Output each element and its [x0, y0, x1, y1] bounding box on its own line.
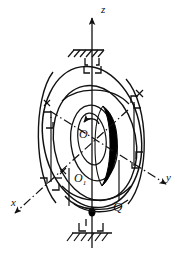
bearing-bracket-left-outer — [44, 112, 53, 128]
point-label-o1-base: O — [74, 171, 83, 185]
axis-label-y: y — [166, 172, 171, 183]
top-support — [68, 50, 104, 65]
point-label-o: O — [79, 128, 88, 140]
bottom-bearing-bracket — [79, 219, 103, 231]
point-label-o1: O1 — [74, 172, 86, 187]
gyroscope-diagram: z y x O O1 Q — [0, 0, 184, 255]
axis-label-x: x — [11, 197, 16, 208]
point-label-o1-subscript: 1 — [83, 179, 87, 187]
point-label-q: Q — [113, 200, 122, 213]
bottom-support — [67, 233, 112, 241]
axis-tick-marks — [44, 100, 66, 174]
diagram-canvas — [0, 0, 184, 255]
axis-label-z: z — [101, 4, 105, 15]
